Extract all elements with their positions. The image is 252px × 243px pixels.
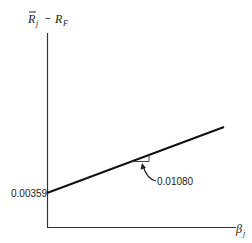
svg-text:F: F xyxy=(62,19,68,28)
slope-arrow xyxy=(141,163,157,181)
svg-text:j: j xyxy=(35,19,39,28)
x-axis-label: β j xyxy=(235,222,246,238)
svg-text:R: R xyxy=(54,12,63,26)
chart: R j − R F β j 0.01080 0.00359 xyxy=(0,0,252,243)
svg-text:j: j xyxy=(242,229,246,238)
svg-text:R: R xyxy=(27,12,36,26)
intercept-label: 0.00359 xyxy=(11,188,48,199)
y-axis-label: R j − R F xyxy=(27,12,68,28)
slope-label: 0.01080 xyxy=(157,176,194,187)
svg-text:−: − xyxy=(45,13,51,24)
regression-line xyxy=(47,127,224,193)
svg-text:β: β xyxy=(235,222,242,236)
